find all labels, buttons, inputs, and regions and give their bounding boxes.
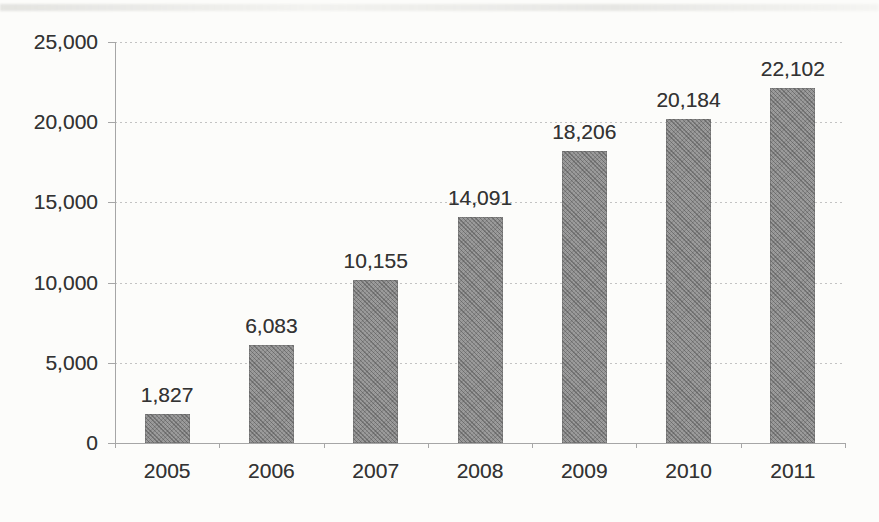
bar — [562, 151, 607, 443]
y-tick-label: 10,000 — [0, 271, 98, 295]
y-tick-label: 25,000 — [0, 30, 98, 54]
x-axis-tick — [115, 443, 116, 448]
y-tick-label: 20,000 — [0, 110, 98, 134]
bar-chart: 05,00010,00015,00020,00025,0001,82720056… — [0, 0, 879, 522]
bar — [770, 88, 815, 443]
bar — [249, 345, 294, 443]
y-axis-tick — [108, 122, 115, 123]
scan-artifact-top — [0, 4, 879, 11]
bar — [353, 280, 398, 443]
bar-value-label: 18,206 — [514, 120, 654, 144]
gridline — [115, 42, 845, 43]
x-axis-tick — [324, 443, 325, 448]
x-axis-tick — [845, 443, 846, 448]
bar-value-label: 20,184 — [619, 88, 759, 112]
x-tick-label: 2011 — [723, 459, 863, 483]
y-axis-tick — [108, 42, 115, 43]
y-axis-tick — [108, 363, 115, 364]
y-tick-label: 5,000 — [0, 351, 98, 375]
x-axis-tick — [532, 443, 533, 448]
x-axis-tick — [741, 443, 742, 448]
x-axis-tick — [219, 443, 220, 448]
bar-value-label: 10,155 — [306, 249, 446, 273]
bar — [666, 119, 711, 443]
gridline — [115, 122, 845, 123]
bar — [145, 414, 190, 443]
y-axis-tick — [108, 202, 115, 203]
y-tick-label: 15,000 — [0, 190, 98, 214]
bar-value-label: 1,827 — [97, 383, 237, 407]
x-axis-tick — [636, 443, 637, 448]
y-axis-tick — [108, 283, 115, 284]
bar-value-label: 6,083 — [201, 314, 341, 338]
bar-value-label: 22,102 — [723, 57, 863, 81]
x-axis-tick — [428, 443, 429, 448]
bar — [458, 217, 503, 443]
bar-value-label: 14,091 — [410, 186, 550, 210]
y-tick-label: 0 — [0, 431, 98, 455]
